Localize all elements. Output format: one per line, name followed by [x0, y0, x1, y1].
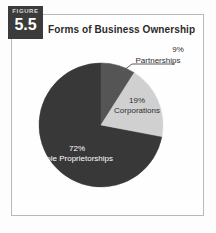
figure-number-badge: FIGURE 5.5	[8, 6, 43, 39]
corporations-percent-label: 19%	[129, 96, 145, 105]
pie-chart: 9% Partnerships 19% Corporations 72% Sol…	[11, 14, 204, 216]
sole-proprietorships-name-label: Sole Proprietorships	[41, 154, 113, 163]
figure-root: FIGURE 5.5 Forms of Business Ownership 9…	[0, 0, 216, 233]
figure-word-label: FIGURE	[8, 8, 43, 15]
sole-proprietorships-percent-label: 72%	[69, 144, 85, 153]
partnerships-percent-label: 9%	[172, 45, 184, 54]
corporations-name-label: Corporations	[114, 106, 160, 115]
figure-number: 5.5	[8, 16, 43, 33]
partnerships-name-label: Partnerships	[136, 56, 181, 65]
